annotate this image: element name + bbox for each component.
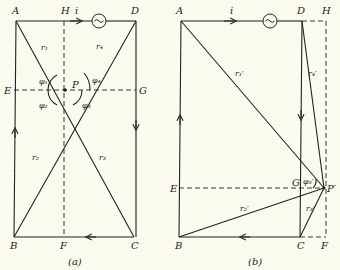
diagram-canvas: A H i D E G P B F C r₁ r₄ r₂ r₃ φ₁ φ₂ φ₃… (0, 0, 340, 270)
current-label: i (230, 5, 233, 16)
vertex-e-label: E (169, 183, 178, 194)
vertex-d-label: D (296, 5, 305, 16)
ac-source-icon (263, 14, 277, 28)
vertex-h-label: H (60, 5, 70, 16)
r4-prime-label: r₄′ (308, 69, 317, 78)
phi3-label: φ₃ (82, 101, 91, 110)
vertex-a-label: A (175, 5, 183, 16)
phi2-label: φ₂ (39, 101, 48, 110)
vertex-f-label: F (59, 240, 68, 251)
phi4-label: φ₄ (92, 76, 101, 85)
vertex-g-label: G (139, 85, 147, 96)
vertex-c-label: C (297, 240, 305, 251)
r4-label: r₄ (96, 42, 103, 51)
vertex-f-label: F (320, 240, 329, 251)
panel-a: A H i D E G P B F C r₁ r₄ r₂ r₃ φ₁ φ₂ φ₃… (3, 5, 147, 267)
phi3-prime-label: φ₃′ (303, 177, 314, 186)
vertex-c-label: C (131, 240, 139, 251)
current-label: i (75, 5, 78, 16)
r2-prime-label: r₂′ (240, 204, 249, 213)
panel-b: A i D H E G P′ B C F r₁′ r₄′ r₂′ r₃′ φ₃′… (169, 5, 337, 267)
phi1-label: φ₁ (39, 77, 48, 86)
point-p-label: P (71, 79, 79, 90)
r2-label: r₂ (32, 153, 39, 162)
r1-prime-label: r₁′ (235, 69, 244, 78)
vertex-g-label: G (292, 177, 300, 188)
vertex-h-label: H (321, 5, 331, 16)
vertex-b-label: B (9, 240, 17, 251)
r3-label: r₃ (99, 153, 106, 162)
point-p-prime-label: P′ (326, 183, 337, 194)
vertex-e-label: E (3, 85, 12, 96)
caption-b: (b) (248, 256, 262, 267)
r3-prime-label: r₃′ (306, 204, 315, 213)
ac-source-icon (92, 14, 106, 28)
vertex-b-label: B (174, 240, 182, 251)
vertex-d-label: D (130, 5, 139, 16)
caption-a: (a) (68, 256, 82, 267)
r1-label: r₁ (41, 43, 48, 52)
vertex-a-label: A (11, 5, 19, 16)
